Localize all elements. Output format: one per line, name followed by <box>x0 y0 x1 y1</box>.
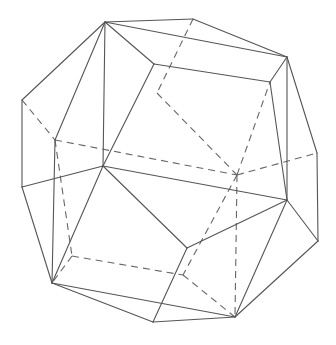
visible-edge-A-G <box>55 22 105 140</box>
visible-edge-A-C <box>105 22 287 57</box>
visible-edge-P-O <box>153 248 187 322</box>
visible-edge-F2-M <box>22 187 52 283</box>
hidden-edge-F-G <box>22 100 55 140</box>
visible-edge-D-J <box>270 82 287 200</box>
visible-edge-H-P <box>103 166 187 248</box>
hidden-edge-I-S <box>183 175 237 275</box>
visible-edge-M-Q <box>52 283 235 317</box>
hidden-edge-B-T <box>157 19 193 93</box>
visible-edge-E-H <box>103 64 154 166</box>
visible-edge-D-C <box>270 57 287 82</box>
hidden-edge-G-N <box>55 140 72 256</box>
visible-edges <box>22 19 318 322</box>
hidden-edge-S-Q <box>183 275 235 317</box>
visible-edge-O-Q <box>153 317 235 322</box>
polyhedron-diagram <box>0 0 336 345</box>
hidden-edge-I-K <box>237 153 317 175</box>
hidden-edge-T-I <box>157 93 237 175</box>
visible-edge-J-P <box>187 200 287 248</box>
visible-edge-J-R <box>287 200 318 241</box>
visible-edge-C-K <box>287 57 317 153</box>
visible-edge-M-O <box>52 283 153 322</box>
visible-edge-B-C <box>193 19 287 57</box>
hidden-edge-N-S <box>72 256 183 275</box>
hidden-edge-I-D <box>237 82 270 175</box>
hidden-edge-G-I <box>55 140 237 175</box>
hidden-edges <box>22 19 317 317</box>
visible-edge-A-F <box>22 22 105 100</box>
visible-edge-F2-H <box>22 166 103 187</box>
visible-edge-E-D <box>154 64 270 82</box>
visible-edge-R-Q <box>235 241 318 317</box>
visible-edge-J-Q <box>235 200 287 317</box>
visible-edge-H-M <box>52 166 103 283</box>
visible-edge-K-R <box>317 153 318 241</box>
visible-edge-H-J <box>103 166 287 200</box>
visible-edge-G-M <box>52 140 55 283</box>
visible-edge-A-E <box>105 22 154 64</box>
visible-edge-A-H <box>103 22 105 166</box>
visible-edge-A-B <box>105 19 193 22</box>
hidden-edge-I-Q <box>235 175 237 317</box>
